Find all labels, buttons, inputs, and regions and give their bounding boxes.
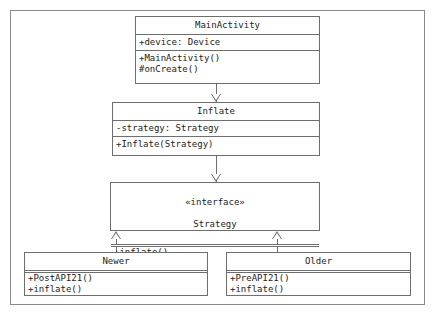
class-box-strategy[interactable]: «interface» Strategy +inflate() [110,182,320,231]
arrowhead-strategy-from-inflate [211,174,221,182]
operations-newer: +PostAPI21() +inflate() [25,270,207,297]
class-name-mainactivity: MainActivity [136,17,319,34]
attributes-inflate: -strategy: Strategy [113,120,319,136]
class-box-inflate[interactable]: Inflate -strategy: Strategy +Inflate(Str… [112,102,320,156]
attributes-mainactivity: +device: Device [136,34,319,50]
class-name-strategy-label: Strategy [115,219,315,230]
attribute-strategy: -strategy: Strategy [116,123,316,134]
operation-inflate-ctor: +Inflate(Strategy) [116,139,316,150]
class-box-mainactivity[interactable]: MainActivity +device: Device +MainActivi… [135,16,320,84]
class-name-strategy: «interface» Strategy [111,183,319,244]
arrowhead-inflate-from-mainactivity [211,94,221,102]
operation-postapi21: +PostAPI21() [28,273,204,284]
attribute-device: +device: Device [139,37,316,48]
operation-older-inflate: +inflate() [230,284,407,295]
operation-preapi21: +PreAPI21() [230,273,407,284]
operation-oncreate: #onCreate() [139,64,316,75]
class-name-inflate: Inflate [113,103,319,120]
operations-inflate: +Inflate(Strategy) [113,136,319,152]
class-name-newer: Newer [25,253,207,270]
uml-class-diagram: MainActivity +device: Device +MainActivi… [0,0,437,319]
class-name-older: Older [227,253,410,270]
operations-older: +PreAPI21() +inflate() [227,270,410,297]
class-box-newer[interactable]: Newer +PostAPI21() +inflate() [24,252,208,296]
class-box-older[interactable]: Older +PreAPI21() +inflate() [226,252,411,296]
operations-mainactivity: +MainActivity() #onCreate() [136,50,319,77]
operation-newer-inflate: +inflate() [28,284,204,295]
operation-mainactivity-ctor: +MainActivity() [139,53,316,64]
stereotype-interface: «interface» [115,197,315,208]
